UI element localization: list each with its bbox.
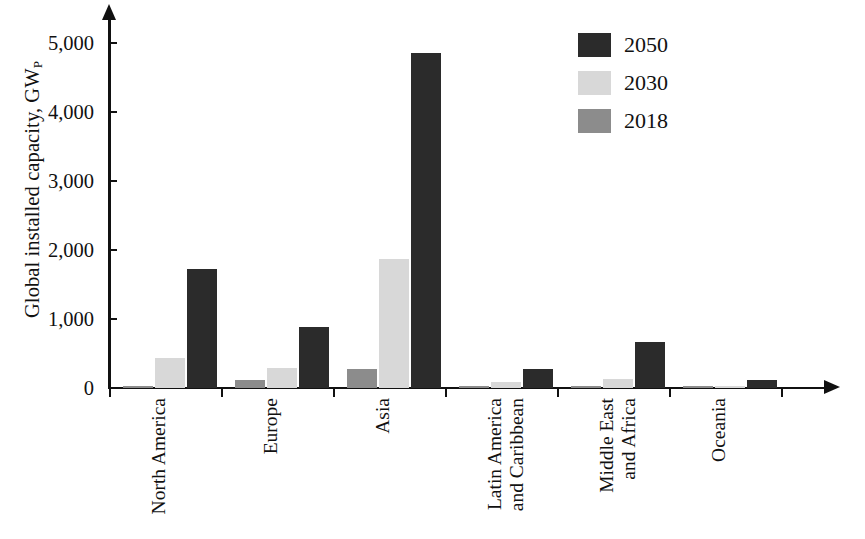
bar-2018: [571, 386, 601, 388]
bar-chart: Global installed capacity, GWP 01,0002,0…: [0, 0, 865, 539]
bar-2018: [459, 386, 489, 388]
x-axis-label: Europe: [260, 398, 282, 539]
bar-2050: [299, 327, 329, 388]
bar-2050: [187, 269, 217, 388]
bar-2018: [347, 369, 377, 388]
y-axis-tick-label: 3,000: [0, 171, 94, 192]
y-axis-tick-label: 1,000: [0, 309, 94, 330]
x-axis-tick: [669, 388, 671, 397]
bar-2050: [523, 369, 553, 388]
x-axis-label: Middle East: [596, 398, 618, 539]
legend: 205020302018: [578, 26, 668, 140]
bar-2018: [235, 380, 265, 388]
legend-label: 2030: [624, 72, 668, 94]
x-axis-label: and Africa: [618, 398, 640, 539]
x-axis-tick: [781, 388, 783, 397]
legend-swatch: [578, 33, 611, 57]
x-axis-tick: [109, 388, 111, 397]
legend-item: 2018: [578, 102, 668, 140]
legend-item: 2050: [578, 26, 668, 64]
bar-2030: [267, 368, 297, 388]
x-axis-tick: [221, 388, 223, 397]
plot-area: [108, 18, 826, 388]
y-axis-tick-label: 5,000: [0, 33, 94, 54]
x-axis-tick: [557, 388, 559, 397]
bar-2050: [747, 380, 777, 388]
x-axis-label: and Caribbean: [506, 398, 528, 539]
bar-2030: [715, 386, 745, 388]
bar-2030: [379, 259, 409, 388]
legend-label: 2050: [624, 34, 668, 56]
x-axis-label: Asia: [372, 398, 394, 539]
y-axis-tick-label: 4,000: [0, 102, 94, 123]
x-axis-label: North America: [148, 398, 170, 539]
bar-2018: [123, 386, 153, 388]
y-axis-tick-label: 0: [0, 378, 94, 399]
x-axis-label: Latin America: [484, 398, 506, 539]
bar-2018: [683, 386, 713, 388]
legend-swatch: [578, 109, 611, 133]
bar-2050: [411, 53, 441, 388]
x-axis-tick: [445, 388, 447, 397]
legend-item: 2030: [578, 64, 668, 102]
legend-swatch: [578, 71, 611, 95]
bar-2030: [155, 358, 185, 388]
bar-2030: [491, 382, 521, 388]
bar-2050: [635, 342, 665, 388]
y-axis-tick-label: 2,000: [0, 240, 94, 261]
bar-2030: [603, 379, 633, 388]
legend-label: 2018: [624, 110, 668, 132]
x-axis-label: Oceania: [708, 398, 730, 539]
x-axis-tick: [333, 388, 335, 397]
